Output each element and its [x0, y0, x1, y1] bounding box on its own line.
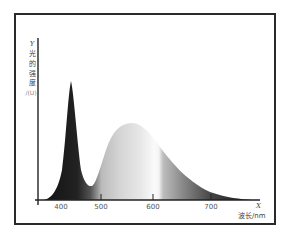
spectrum-chart	[0, 0, 286, 233]
spectrum-area	[44, 81, 252, 200]
y-label-char: 光	[27, 50, 37, 58]
x-tick-700: 700	[204, 203, 217, 211]
y-label-char: 强	[27, 70, 37, 78]
y-axis-letter: Y	[27, 40, 37, 48]
x-tick-500: 500	[94, 203, 107, 211]
y-label-char: 度	[27, 79, 37, 87]
x-axis-unit: 波长/nm	[238, 210, 266, 220]
x-tick-600: 600	[146, 203, 159, 211]
x-axis-letter: X	[256, 202, 261, 210]
y-label-char: 的	[27, 60, 37, 68]
y-unit: /(U)	[24, 89, 38, 97]
x-tick-400: 400	[54, 203, 67, 211]
